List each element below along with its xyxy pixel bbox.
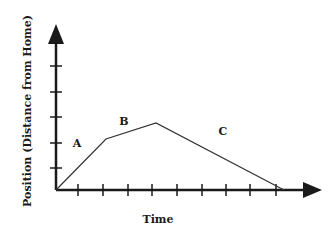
segment-label-c: C bbox=[219, 125, 228, 138]
x-axis-arrow-icon bbox=[303, 182, 322, 198]
x-axis-label: Time bbox=[142, 213, 173, 226]
y-axis-label: Position (Distance from Home) bbox=[21, 15, 34, 207]
y-axis-arrow-icon bbox=[48, 24, 64, 44]
position-time-chart: A B C Position (Distance from Home) Time bbox=[0, 0, 336, 237]
position-line bbox=[56, 123, 284, 190]
chart-canvas: A B C bbox=[0, 0, 336, 237]
segment-label-b: B bbox=[119, 115, 128, 128]
segment-label-a: A bbox=[72, 137, 82, 150]
